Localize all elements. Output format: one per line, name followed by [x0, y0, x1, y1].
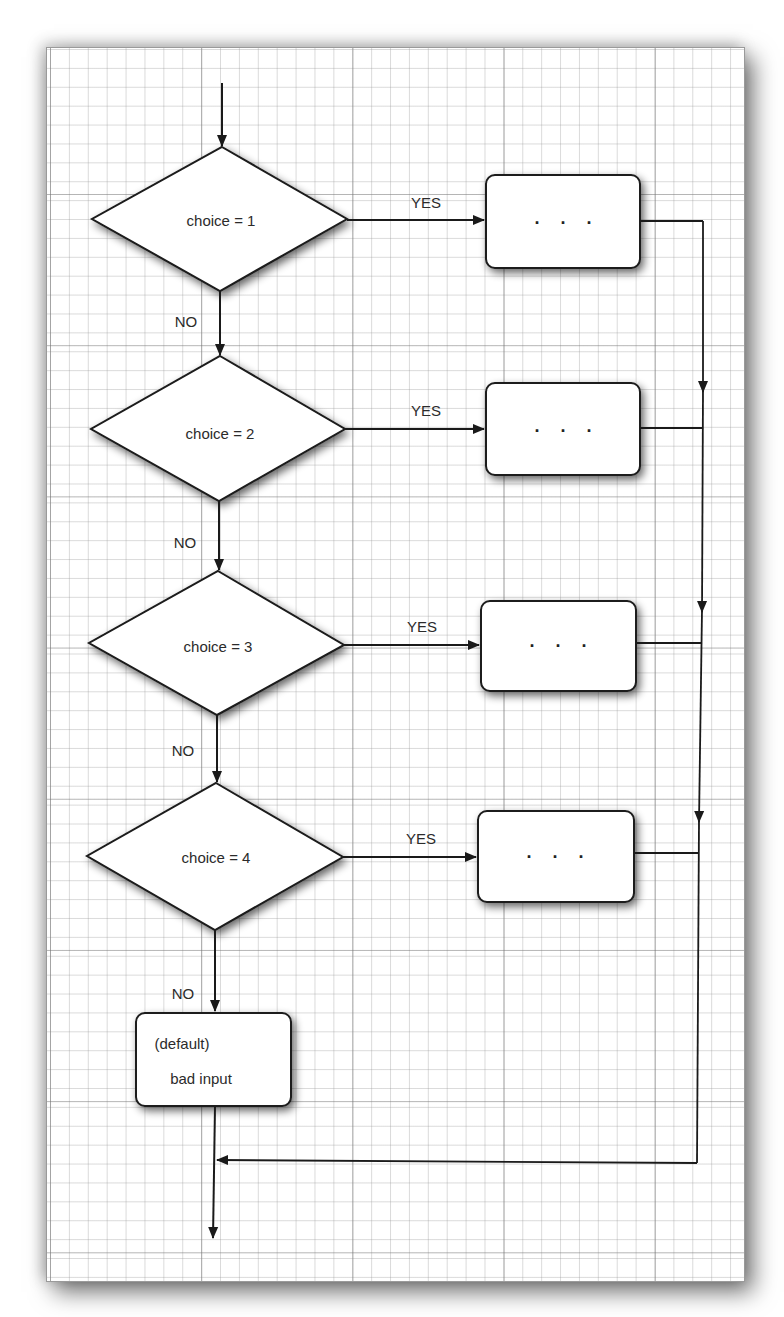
yes-label-2: YES [411, 402, 441, 419]
merge-arrow-2 [702, 390, 703, 612]
default-label: (default) [154, 1035, 209, 1052]
no-label-1: NO [175, 313, 198, 330]
action-text-3: . . . [529, 631, 594, 652]
exit-arrow [213, 1106, 215, 1238]
action-text-1: . . . [534, 208, 599, 229]
no-label-2: NO [174, 534, 197, 551]
decision-label-2: choice = 2 [186, 425, 255, 442]
yes-label-3: YES [407, 618, 437, 635]
action-text-2: . . . [534, 416, 599, 437]
default-box [136, 1013, 291, 1106]
no-label-4: NO [172, 985, 195, 1002]
merge-arrow-3 [699, 610, 702, 822]
merge-return-arrow [217, 1160, 697, 1163]
flowchart [0, 0, 784, 1317]
yes-label-4: YES [406, 830, 436, 847]
decision-label-1: choice = 1 [187, 212, 256, 229]
bad-input-label: bad input [170, 1070, 232, 1087]
decision-label-4: choice = 4 [182, 849, 251, 866]
decision-label-3: choice = 3 [184, 638, 253, 655]
no-label-3: NO [172, 742, 195, 759]
merge-line-down [697, 820, 699, 1163]
yes-label-1: YES [411, 194, 441, 211]
action-text-4: . . . [526, 842, 591, 863]
